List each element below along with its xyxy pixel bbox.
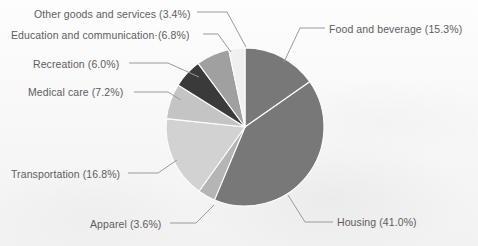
pie-label-other-goods-and-services: Other goods and services (3.4%) (34, 8, 191, 20)
pie-label-medical-care: Medical care (7.2%) (28, 86, 123, 98)
pie-label-transportation: Transportation (16.8%) (11, 168, 120, 180)
leader-line-food-and-beverage (284, 28, 325, 62)
leader-line-education-and-communication (203, 34, 231, 52)
pie-slices-group (166, 48, 324, 206)
pie-label-food-and-beverage: Food and beverage (15.3%) (329, 23, 462, 35)
pie-label-housing: Housing (41.0%) (337, 216, 417, 228)
pie-chart-figure: Other goods and services (3.4%) Educatio… (0, 0, 478, 246)
leader-line-housing (288, 195, 333, 222)
leader-line-transportation (128, 160, 177, 173)
pie-label-apparel: Apparel (3.6%) (90, 218, 161, 230)
pie-label-education-and-communication: Education and communication·(6.8%) (11, 29, 190, 41)
pie-label-recreation: Recreation (6.0%) (33, 58, 119, 70)
leader-line-other-goods-and-services (197, 12, 246, 47)
leader-line-apparel (170, 205, 214, 223)
